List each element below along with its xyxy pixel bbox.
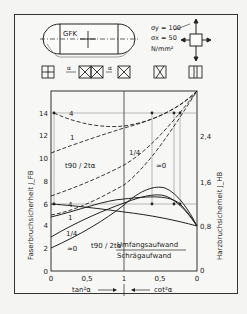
- y-label-right: Harzbruchsicherheit J_HB: [216, 171, 224, 260]
- svg-text:0: 0: [195, 275, 199, 283]
- pattern-helical-icon: [118, 66, 130, 78]
- left-axis-ticks: 0 2 4 6 8 10 12 14: [39, 110, 48, 276]
- stress-label-y: σy = 100: [151, 24, 181, 32]
- svg-text:10: 10: [39, 155, 48, 163]
- alpha-label-left: α: [67, 64, 71, 71]
- svg-text:0: 0: [49, 275, 53, 283]
- vessel-drawing: [40, 24, 140, 57]
- alpha-label-right: α: [108, 64, 112, 71]
- svg-text:0: 0: [44, 268, 48, 276]
- curve-label-1-jfb: 1: [70, 134, 74, 142]
- svg-text:2,4: 2,4: [200, 133, 212, 141]
- svg-text:14: 14: [39, 110, 48, 118]
- y-label-left: Faserbruchsicherheit J_FB: [27, 170, 35, 260]
- right-axis-ticks: 0 0,8 1,6 2,4: [200, 133, 212, 275]
- annotation-schraegaufwand: Schrägaufwand: [117, 252, 171, 260]
- curve-label-zero-jhb: ≈0: [67, 245, 77, 253]
- curve-label-zero-jfb: ≈0: [156, 162, 166, 170]
- svg-text:0: 0: [200, 267, 204, 275]
- curve-label-4-jfb: 4: [69, 110, 74, 118]
- x-label-left: tan²α: [72, 286, 91, 294]
- stress-label-x: σx = 50: [151, 34, 177, 42]
- annotation-umfangsaufwand: Umfangsaufwand: [117, 241, 178, 249]
- parameter-label-upper: t90 / 2tα: [65, 162, 96, 170]
- svg-text:8: 8: [44, 178, 48, 186]
- curve-label-4-jhb: 4: [68, 201, 73, 209]
- pattern-axial-band-icon: [189, 66, 202, 78]
- svg-text:0,5: 0,5: [154, 275, 165, 283]
- x-label-right: cot²α: [154, 286, 173, 294]
- pattern-helical-steep-icon: [154, 66, 166, 78]
- curve-label-quarter-jhb: 1/4: [66, 230, 78, 238]
- pattern-hoop-axial-icon: [42, 66, 54, 78]
- vessel-label: GFK: [63, 30, 77, 38]
- svg-text:1,6: 1,6: [200, 179, 212, 187]
- stress-unit: N/mm²: [151, 45, 174, 53]
- svg-text:0,8: 0,8: [200, 223, 211, 231]
- x-axis-ticks: 0 0,5 1 0,5 0: [49, 275, 199, 283]
- svg-text:4: 4: [44, 222, 49, 230]
- pattern-helical-alpha-icon: [66, 66, 112, 78]
- svg-text:6: 6: [44, 201, 49, 209]
- svg-text:1: 1: [122, 275, 126, 283]
- svg-text:0,5: 0,5: [81, 275, 92, 283]
- svg-text:12: 12: [39, 132, 48, 140]
- svg-text:2: 2: [44, 245, 48, 253]
- curve-label-quarter-jfb: 1/4: [129, 149, 141, 157]
- chart: GFK σy = 100 σx = 50 N/mm² α α: [0, 0, 247, 314]
- curve-label-1-jhb: 1: [68, 214, 72, 222]
